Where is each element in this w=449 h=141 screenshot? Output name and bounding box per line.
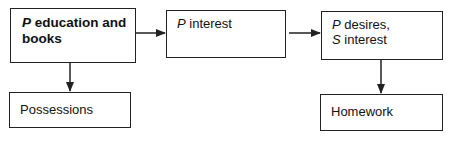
node-prefix: S <box>332 32 341 47</box>
node-p-education-and-books: P education and books <box>10 8 136 63</box>
node-prefix: P <box>22 15 31 30</box>
node-line-2: S interest <box>332 32 442 47</box>
node-p-desires-s-interest: P desires, S interest <box>321 11 443 60</box>
node-p-interest: P interest <box>166 10 286 58</box>
node-prefix: P <box>177 16 186 31</box>
node-label: interest <box>341 32 387 47</box>
node-label: Homework <box>331 104 393 119</box>
node-label: interest <box>186 16 232 31</box>
node-label: desires, <box>341 17 390 32</box>
node-prefix: P <box>332 17 341 32</box>
node-label: Possessions <box>20 102 93 117</box>
node-homework: Homework <box>320 94 443 131</box>
node-possessions: Possessions <box>9 92 131 128</box>
node-line-1: P desires, <box>332 17 442 32</box>
node-label: education and books <box>22 15 126 46</box>
